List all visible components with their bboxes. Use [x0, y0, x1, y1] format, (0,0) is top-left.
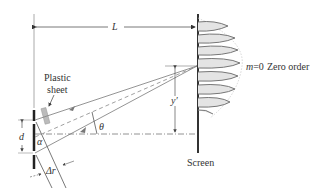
label-y-prime: y′ [170, 95, 178, 106]
label-screen: Screen [187, 157, 214, 168]
theta-reference-line [92, 112, 97, 134]
label-delta-r: Δr [45, 165, 56, 176]
perpendicular-line [36, 122, 66, 188]
label-zero-order: m=0Zero order [246, 61, 310, 72]
path-difference-dimension: Δr [30, 161, 74, 177]
label-L: L [111, 21, 118, 32]
label-plastic-line1: Plastic [44, 72, 71, 83]
distance-L-dimension: L [36, 21, 195, 32]
label-alpha: α [37, 136, 43, 147]
plastic-sheet-pointer [49, 95, 54, 106]
label-d: d [19, 131, 25, 142]
y-prime-dimension: y′ [165, 66, 197, 132]
label-plastic-line2: sheet [47, 84, 68, 95]
diagram-canvas: L Screen m=0Zero order Plastic sheet [0, 0, 331, 193]
label-theta: θ [99, 121, 104, 132]
fringe-pattern [198, 22, 240, 115]
slit-separation-dimension: d [18, 120, 33, 153]
